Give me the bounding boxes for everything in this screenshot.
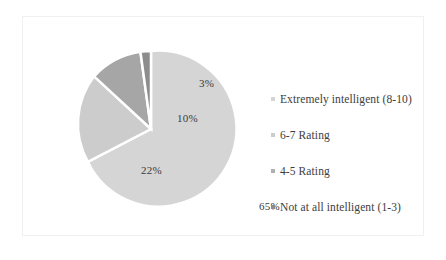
chart-legend: Extremely intelligent (8-10) 6-7 Rating … [271,81,446,225]
square-marker-icon [271,169,275,173]
slice-label-not-at-all-intelligent: 3% [199,77,214,89]
square-marker-icon [271,133,275,137]
legend-item-extremely-intelligent[interactable]: Extremely intelligent (8-10) [271,81,446,117]
legend-item-not-at-all-intelligent[interactable]: Not at all intelligent (1-3) [271,189,446,225]
legend-item-6-7-rating[interactable]: 6-7 Rating [271,117,446,153]
chart-frame: 3% 10% 22% 65% Extremely intelligent (8-… [22,16,424,236]
pie-chart: 3% 10% 22% 65% [73,51,229,207]
legend-item-label: Extremely intelligent (8-10) [280,81,412,117]
legend-item-label: Not at all intelligent (1-3) [280,189,401,225]
square-marker-icon [271,205,275,209]
slice-label-4-5-rating: 10% [177,112,198,124]
slice-label-6-7-rating: 22% [141,164,162,176]
legend-item-4-5-rating[interactable]: 4-5 Rating [271,153,446,189]
legend-item-label: 4-5 Rating [280,153,330,189]
pie-svg [73,51,229,207]
square-marker-icon [271,97,275,101]
legend-item-label: 6-7 Rating [280,117,330,153]
